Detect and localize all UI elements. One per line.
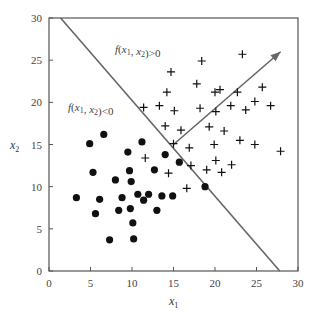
plus-marker — [141, 154, 149, 162]
plus-marker — [236, 136, 244, 144]
dot-marker — [126, 167, 133, 174]
axis-labels: x1x2 — [9, 138, 178, 310]
scatter-chart: 051015202530051015202530 f(x1, x2)>0f(x1… — [0, 0, 315, 321]
plus-marker — [227, 102, 235, 110]
x-tick-label: 30 — [293, 277, 305, 289]
plus-marker — [233, 88, 241, 96]
dot-marker — [201, 183, 208, 190]
plus-marker — [251, 141, 259, 149]
y-tick-label: 30 — [31, 12, 43, 24]
x-tick-label: 25 — [251, 277, 263, 289]
y-tick-label: 5 — [37, 223, 43, 235]
plus-marker — [196, 104, 204, 112]
plus-marker — [193, 80, 201, 88]
dot-marker — [96, 196, 103, 203]
plus-marker — [267, 102, 275, 110]
dot-marker — [145, 191, 152, 198]
dot-marker — [151, 166, 158, 173]
y-tick-label: 25 — [31, 54, 43, 66]
dot-marker — [100, 131, 107, 138]
dot-marker — [73, 194, 80, 201]
dot-marker — [124, 148, 131, 155]
plus-marker — [228, 161, 236, 169]
plus-marker — [170, 107, 178, 115]
plus-marker — [203, 166, 211, 174]
dot-marker — [118, 194, 125, 201]
dot-marker — [89, 169, 96, 176]
plus-marker — [165, 169, 173, 177]
dot-marker — [112, 176, 119, 183]
x-tick-label: 5 — [88, 277, 94, 289]
dot-marker — [129, 219, 136, 226]
y-tick-label: 15 — [31, 139, 43, 151]
dot-marker — [140, 197, 147, 204]
dot-marker — [106, 236, 113, 243]
dot-marker — [115, 207, 122, 214]
x-tick-label: 20 — [210, 277, 222, 289]
plus-marker — [187, 162, 195, 170]
dot-marker — [158, 192, 165, 199]
plus-marker — [242, 106, 250, 114]
plus-marker — [251, 97, 259, 105]
plus-marker — [277, 147, 285, 155]
plus-marker — [198, 57, 206, 65]
boundary-line — [61, 18, 280, 271]
plus-marker — [218, 168, 226, 176]
x-axis-label: x1 — [168, 294, 178, 310]
dot-marker — [128, 178, 135, 185]
plus-marker — [170, 140, 178, 148]
decision-boundary — [61, 18, 281, 271]
plus-marker — [212, 108, 220, 116]
region-label: f(x1, x2)<0 — [68, 101, 114, 118]
plus-marker — [155, 102, 163, 110]
dot-marker — [134, 191, 141, 198]
plus-marker — [238, 50, 246, 58]
dot-marker — [130, 235, 137, 242]
plus-marker — [212, 157, 220, 165]
y-tick-label: 20 — [31, 96, 43, 108]
dot-marker — [169, 192, 176, 199]
dot-marker — [176, 159, 183, 166]
plus-marker — [258, 83, 266, 91]
plus-marker — [210, 141, 218, 149]
plus-marker — [185, 144, 193, 152]
dot-marker — [86, 140, 93, 147]
plus-marker — [177, 126, 185, 134]
plus-marker — [183, 184, 191, 192]
data-points — [73, 50, 285, 243]
x-tick-label: 0 — [46, 277, 52, 289]
region-label: f(x1, x2)>0 — [115, 43, 161, 60]
axis-ticks: 051015202530051015202530 — [31, 12, 304, 289]
dot-marker — [162, 151, 169, 158]
plus-marker — [205, 123, 213, 131]
dot-marker — [92, 210, 99, 217]
y-axis-label: x2 — [9, 138, 19, 154]
plus-marker — [167, 68, 175, 76]
x-tick-label: 15 — [168, 277, 180, 289]
x-tick-label: 10 — [127, 277, 139, 289]
plus-marker — [163, 88, 171, 96]
y-tick-label: 10 — [31, 181, 43, 193]
y-tick-label: 0 — [37, 265, 43, 277]
dot-marker — [153, 207, 160, 214]
plus-marker — [161, 122, 169, 130]
dot-marker — [138, 138, 145, 145]
dot-marker — [127, 205, 134, 212]
plus-marker — [220, 127, 228, 135]
